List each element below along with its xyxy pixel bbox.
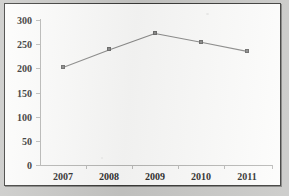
data-point-marker xyxy=(199,40,203,44)
scan-speck xyxy=(206,13,209,15)
scan-speck xyxy=(19,96,21,98)
scanned-page: 300 250 200 150 100 50 0 2007 2008 2009 … xyxy=(0,0,289,196)
scan-speck xyxy=(101,157,103,159)
data-point-marker xyxy=(153,31,157,35)
chart-frame: 300 250 200 150 100 50 0 2007 2008 2009 … xyxy=(4,3,281,186)
data-point-marker xyxy=(107,47,111,51)
data-series-line xyxy=(5,4,280,185)
plot-area: 300 250 200 150 100 50 0 2007 2008 2009 … xyxy=(5,4,280,185)
data-point-marker xyxy=(61,65,65,69)
data-point-marker xyxy=(245,49,249,53)
